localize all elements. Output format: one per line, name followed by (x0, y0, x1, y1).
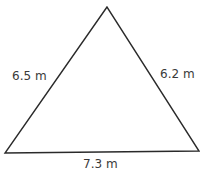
left-side-label: 6.5 m (12, 70, 47, 82)
bottom-side-label: 7.3 m (83, 158, 118, 170)
right-side-label: 6.2 m (160, 68, 195, 80)
triangle (0, 0, 200, 173)
